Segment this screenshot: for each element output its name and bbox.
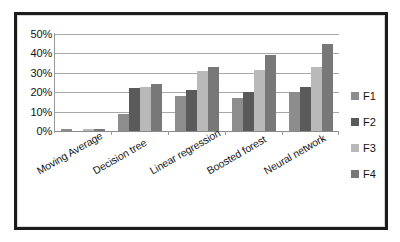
legend-swatch-icon — [351, 170, 359, 178]
bar-group — [112, 34, 169, 131]
x-axis-tick — [225, 131, 226, 135]
legend-label: F2 — [363, 117, 376, 128]
legend-swatch-icon — [351, 144, 359, 152]
x-axis-tick — [168, 131, 169, 135]
bar-f3-boosted-forest[interactable] — [254, 70, 265, 131]
chart-screenshot: 0%10%20%30%40%50% Moving AverageDecision… — [0, 0, 400, 242]
x-axis-tick — [111, 131, 112, 135]
bar-f2-decision-tree[interactable] — [129, 88, 140, 131]
bar-f1-decision-tree[interactable] — [118, 114, 129, 131]
legend-label: F1 — [363, 91, 376, 102]
bar-f1-boosted-forest[interactable] — [232, 98, 243, 131]
legend-swatch-icon — [351, 118, 359, 126]
bar-f4-decision-tree[interactable] — [151, 84, 162, 131]
gridline-0% — [55, 131, 339, 132]
legend-item-f4[interactable]: F4 — [351, 161, 391, 187]
bar-f1-neural-network[interactable] — [289, 92, 300, 131]
category-label-decision-tree: Decision tree — [91, 137, 148, 177]
chart-legend: F1F2F3F4 — [351, 83, 391, 187]
y-tick-label: 20% — [18, 87, 52, 98]
category-label-boosted-forest: Boosted forest — [205, 134, 268, 177]
legend-item-f1[interactable]: F1 — [351, 83, 391, 109]
legend-label: F4 — [363, 169, 376, 180]
legend-item-f2[interactable]: F2 — [351, 109, 391, 135]
plot-area — [55, 34, 339, 131]
bar-group — [169, 34, 226, 131]
y-tick-label: 30% — [18, 68, 52, 79]
y-tick-label: 50% — [18, 29, 52, 40]
chart-frame: 0%10%20%30%40%50% Moving AverageDecision… — [14, 12, 388, 230]
category-label-moving-average: Moving Average — [35, 130, 104, 176]
x-axis-tick — [282, 131, 283, 135]
bar-f4-linear-regression[interactable] — [208, 67, 219, 131]
bar-f3-decision-tree[interactable] — [140, 87, 151, 131]
bar-f2-linear-regression[interactable] — [186, 90, 197, 131]
bar-f1-moving-average[interactable] — [61, 129, 72, 131]
bar-f3-neural-network[interactable] — [311, 67, 322, 131]
bar-group — [282, 34, 339, 131]
bar-f4-boosted-forest[interactable] — [265, 55, 276, 131]
legend-swatch-icon — [351, 92, 359, 100]
bar-f2-neural-network[interactable] — [300, 87, 311, 131]
legend-label: F3 — [363, 143, 376, 154]
x-axis-tick — [338, 131, 339, 135]
bar-group — [55, 34, 112, 131]
bar-f4-moving-average[interactable] — [94, 129, 105, 131]
bar-f2-boosted-forest[interactable] — [243, 92, 254, 131]
bar-group — [225, 34, 282, 131]
legend-item-f3[interactable]: F3 — [351, 135, 391, 161]
y-tick-label: 10% — [18, 107, 52, 118]
y-axis-tick-labels: 0%10%20%30%40%50% — [17, 34, 52, 131]
category-label-neural-network: Neural network — [262, 132, 327, 176]
y-tick-label: 40% — [18, 48, 52, 59]
bar-f3-moving-average[interactable] — [83, 129, 94, 131]
bar-f1-linear-regression[interactable] — [175, 96, 186, 131]
y-tick-label: 0% — [18, 126, 52, 137]
category-label-linear-regression: Linear regression — [148, 127, 222, 176]
bar-f4-neural-network[interactable] — [322, 44, 333, 131]
bar-f3-linear-regression[interactable] — [197, 71, 208, 131]
